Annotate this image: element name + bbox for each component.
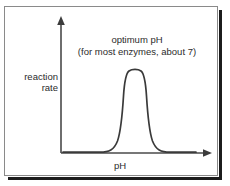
x-axis-arrowhead-icon [203,149,212,157]
y-axis-label: reaction rate [4,71,58,93]
reaction-rate-curve [63,69,196,152]
y-axis-arrowhead-icon [57,16,65,25]
annotation-line2: (for most enzymes, about 7) [58,46,216,58]
y-axis-label-line2: rate [4,82,58,93]
optimum-ph-annotation: optimum pH (for most enzymes, about 7) [58,34,216,57]
annotation-line1: optimum pH [58,34,216,46]
figure-root: reaction rate pH optimum pH (for most en… [0,0,230,186]
y-axis-label-line1: reaction [4,71,58,82]
x-axis-label: pH [100,160,140,171]
plot-area [0,0,230,186]
